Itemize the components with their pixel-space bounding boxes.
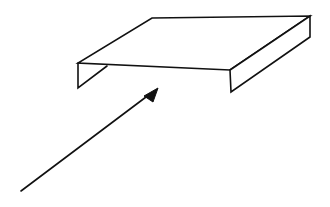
left-flange xyxy=(78,63,107,88)
channel-diagram xyxy=(0,0,330,207)
arrowhead-icon xyxy=(144,88,158,102)
diagram-canvas xyxy=(0,0,330,207)
arrow-shaft xyxy=(21,94,150,191)
